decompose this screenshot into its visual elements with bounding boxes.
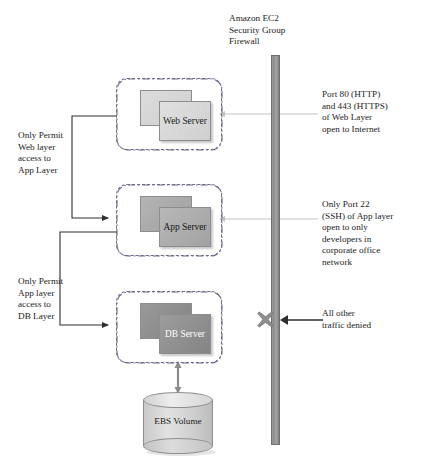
denied-traffic-arrow (280, 315, 323, 325)
app-server-tile-front: App Server (159, 207, 211, 247)
web-allow-line (219, 111, 318, 117)
web-layer-boundary: Web Server (116, 78, 222, 150)
app-allow-line (219, 216, 318, 222)
note-web-to-app: Only Permit Web layer access to App Laye… (18, 130, 90, 176)
note-web-ports: Port 80 (HTTP) and 443 (HTTPS) of Web La… (322, 89, 424, 135)
ebs-volume-bottom (143, 438, 213, 454)
web-server-label: Web Server (163, 116, 207, 127)
traffic-denied-x-icon (257, 311, 274, 328)
note-app-to-db: Only Permit App layer access to DB Layer (18, 276, 90, 322)
app-layer-boundary: App Server (116, 184, 222, 256)
note-app-ports: Only Port 22 (SSH) of App layer open to … (322, 199, 424, 269)
app-server-label: App Server (164, 222, 207, 233)
db-to-ebs-connector (175, 361, 182, 394)
ebs-volume-top (143, 392, 213, 408)
ebs-volume-label: EBS Volume (143, 416, 213, 427)
db-layer-boundary: DB Server (116, 291, 222, 363)
ebs-volume: EBS Volume (143, 392, 213, 456)
db-server-stack: DB Server (140, 303, 212, 355)
app-server-stack: App Server (140, 196, 212, 248)
db-server-tile-front: DB Server (159, 314, 211, 354)
architecture-diagram: Amazon EC2 Security Group Firewall (0, 0, 429, 474)
web-server-stack: Web Server (140, 90, 212, 142)
db-server-label: DB Server (165, 329, 205, 340)
web-server-tile-front: Web Server (159, 101, 211, 141)
note-traffic-denied: All other traffic denied (322, 308, 424, 331)
